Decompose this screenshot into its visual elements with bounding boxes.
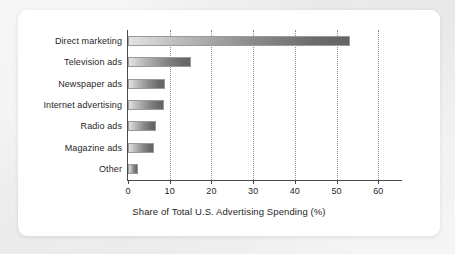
gridline-30 bbox=[253, 30, 254, 180]
gridline-50 bbox=[337, 30, 338, 180]
x-tick-30 bbox=[253, 180, 254, 184]
x-tick-label-50: 50 bbox=[331, 186, 341, 196]
category-label: Direct marketing bbox=[55, 36, 122, 46]
gridline-20 bbox=[211, 30, 212, 180]
gridline-10 bbox=[170, 30, 171, 180]
category-axis-labels: Direct marketingTelevision adsNewspaper … bbox=[18, 30, 122, 180]
chart-card: Direct marketingTelevision adsNewspaper … bbox=[18, 10, 440, 236]
bar bbox=[128, 100, 164, 110]
bar bbox=[128, 143, 154, 153]
x-tick-40 bbox=[295, 180, 296, 184]
gridline-60 bbox=[378, 30, 379, 180]
bar bbox=[128, 79, 165, 89]
x-tick-10 bbox=[170, 180, 171, 184]
x-tick-label-20: 20 bbox=[206, 186, 216, 196]
x-tick-0 bbox=[128, 180, 129, 184]
bar bbox=[128, 121, 156, 131]
x-tick-label-10: 10 bbox=[165, 186, 175, 196]
x-tick-label-60: 60 bbox=[373, 186, 383, 196]
category-label: Magazine ads bbox=[65, 143, 122, 153]
x-tick-label-0: 0 bbox=[125, 186, 130, 196]
category-label: Radio ads bbox=[81, 121, 122, 131]
x-axis-line bbox=[127, 180, 402, 181]
x-tick-label-30: 30 bbox=[248, 186, 258, 196]
bar bbox=[128, 164, 138, 174]
category-label: Internet advertising bbox=[43, 100, 122, 110]
x-tick-60 bbox=[378, 180, 379, 184]
category-label: Other bbox=[99, 164, 122, 174]
x-tick-label-40: 40 bbox=[290, 186, 300, 196]
category-label: Television ads bbox=[64, 57, 122, 67]
x-tick-20 bbox=[211, 180, 212, 184]
gridline-40 bbox=[295, 30, 296, 180]
bar bbox=[128, 57, 191, 67]
bar bbox=[128, 36, 350, 46]
bar-chart-figure: Direct marketingTelevision adsNewspaper … bbox=[18, 10, 440, 236]
x-tick-50 bbox=[337, 180, 338, 184]
category-label: Newspaper ads bbox=[58, 79, 122, 89]
x-axis-title: Share of Total U.S. Advertising Spending… bbox=[18, 206, 440, 217]
plot-area: 0102030405060 bbox=[128, 30, 385, 180]
